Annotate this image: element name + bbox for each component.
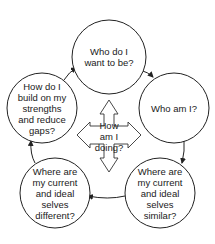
arrow-real-to-similar xyxy=(182,141,184,163)
node-label-different: Where are my current and ideal selves di… xyxy=(33,166,78,221)
arrow-different-to-build xyxy=(31,141,35,163)
node-label-build: How do I build on my strengths and reduc… xyxy=(18,81,67,136)
center-label-how-am-i-doing: How am I doing? xyxy=(95,120,124,153)
node-label-real-self: Who am I? xyxy=(151,103,197,114)
node-label-ideal-self: Who do I want to be? xyxy=(84,46,133,68)
node-label-similar: Where are my current and ideal selves si… xyxy=(138,166,183,221)
arrow-similar-to-different xyxy=(88,196,125,198)
